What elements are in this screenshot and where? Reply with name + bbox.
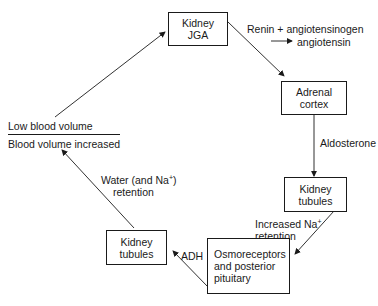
label-aldosterone: Aldosterone [320,137,376,149]
node-label: JGA [182,29,214,41]
node-label: pituitary [214,272,286,284]
node-label: Kidney [299,183,333,195]
label-water-retention: Water (and Na+) [101,174,176,186]
label-sup: + [317,218,321,225]
node-label: tubules [299,195,333,207]
label-angiotensin: angiotensin [297,36,351,48]
state-blood-volume-increased: Blood volume increased [8,138,120,150]
label-text: Increased Na [255,218,317,230]
node-kidney-tubules-right: Kidneytubules [284,177,347,212]
state-low-blood-volume: Low blood volume [8,120,93,132]
arrow-state-to-jga [55,32,165,117]
label-text: Water (and Na [101,174,169,186]
node-label: and posterior [214,260,286,272]
node-label: Kidney [120,236,154,248]
node-label: Kidney [182,17,214,29]
node-label: cortex [296,98,332,110]
node-kidney-jga: KidneyJGA [168,12,228,46]
node-label: Osmoreceptors [214,248,286,260]
node-adrenal-cortex: Adrenalcortex [281,81,347,115]
node-kidney-tubules-left: Kidneytubules [106,230,167,265]
label-increased-na: Increased Na+ [255,218,322,230]
state-divider [8,134,120,135]
label-water-retention-line2: retention [113,186,154,198]
node-osmoreceptors: Osmoreceptorsand posteriorpituitary [207,238,290,294]
node-label: tubules [120,248,154,260]
label-renin: Renin + angiotensinogen [247,23,363,35]
node-label: Adrenal [296,86,332,98]
label-adh: ADH [181,250,203,262]
label-text: ) [173,174,177,186]
